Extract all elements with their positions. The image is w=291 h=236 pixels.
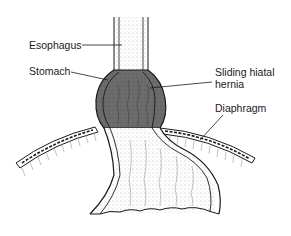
label-esophagus: Esophagus	[29, 39, 82, 51]
anatomy-illustration	[0, 0, 291, 236]
label-stomach: Stomach	[29, 65, 70, 77]
diaphragm-leader-line	[200, 115, 223, 140]
diaphragm-left	[16, 127, 98, 176]
hiatal-hernia-diagram: Esophagus Stomach Sliding hiatal hernia …	[0, 0, 291, 236]
label-sliding-hiatal-hernia-line2: hernia	[215, 78, 244, 90]
label-diaphragm: Diaphragm	[215, 102, 266, 114]
stomach-leader-line	[71, 72, 108, 80]
herniated-stomach	[96, 70, 166, 128]
label-sliding-hiatal-hernia-line1: Sliding hiatal	[215, 66, 275, 78]
esophagus	[114, 17, 148, 72]
